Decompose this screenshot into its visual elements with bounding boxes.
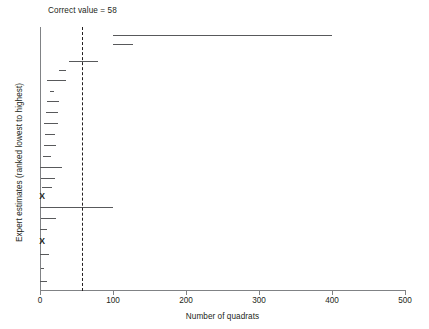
interval-rank-17 [47,101,59,102]
interval-rank-3 [40,254,49,255]
x-tick-0 [40,291,41,295]
x-tick-100 [113,291,114,295]
interval-rank-1 [40,281,47,282]
interval-rank-6 [41,218,56,219]
x-tick-label-400: 400 [325,296,339,305]
interval-rank-13 [44,145,56,146]
x-tick-400 [332,291,333,295]
y-axis-line [40,27,41,291]
x-tick-label-200: 200 [179,296,193,305]
interval-rank-14 [45,134,55,135]
interval-rank-2 [41,268,44,269]
interval-rank-18 [50,91,54,92]
x-marker-rank-8: X [39,237,45,246]
correct-value-reference-line [82,27,83,291]
interval-rank-12 [43,156,51,157]
x-axis-line [40,290,406,291]
interval-rank-21 [69,61,98,62]
interval-rank-10 [41,178,54,179]
interval-rank-22 [113,44,133,45]
x-tick-label-500: 500 [398,296,412,305]
interval-rank-7 [40,207,113,208]
chart-title: Correct value = 58 [48,6,117,15]
y-axis-label: Expert estimates (ranked lowest to highe… [15,58,24,268]
x-tick-label-300: 300 [252,296,266,305]
interval-rank-11 [40,167,62,168]
x-tick-300 [259,291,260,295]
interval-rank-23 [113,35,332,36]
interval-rank-16 [46,112,58,113]
x-tick-500 [405,291,406,295]
interval-rank-9 [42,187,51,188]
x-tick-200 [186,291,187,295]
x-tick-label-100: 100 [106,296,120,305]
interval-rank-19 [47,80,66,81]
x-axis-label: Number of quadrats [40,312,405,321]
interval-rank-5 [40,229,47,230]
interval-rank-20 [59,70,66,71]
x-marker-rank-4: X [39,192,45,201]
x-tick-label-0: 0 [38,296,43,305]
interval-rank-15 [44,123,58,124]
chart-figure: Correct value = 58 Expert estimates (ran… [0,0,429,329]
